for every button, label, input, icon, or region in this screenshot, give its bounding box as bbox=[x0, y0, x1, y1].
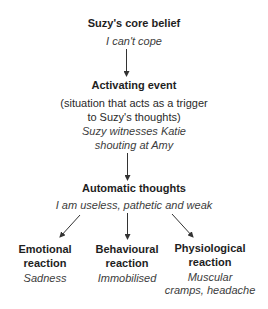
arrow-automatic-thoughts-to-physiological bbox=[172, 214, 193, 237]
diagram-arrows bbox=[0, 0, 268, 309]
arrow-automatic-thoughts-to-emotional bbox=[60, 215, 80, 237]
